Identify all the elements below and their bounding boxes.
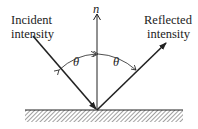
reflecting-surface xyxy=(25,110,183,122)
incident-label-line2: intensity xyxy=(11,27,55,41)
reflected-label-line2: intensity xyxy=(147,27,191,41)
incident-label-line1: Incident xyxy=(11,13,52,27)
angle-label-right: θ xyxy=(113,55,119,69)
normal-label: n xyxy=(93,2,99,16)
angle-label-left: θ xyxy=(73,55,79,69)
reflection-diagram: Incident intensity Reflected intensity n… xyxy=(0,0,198,129)
incident-ray xyxy=(33,36,96,109)
reflected-ray xyxy=(97,43,166,110)
reflected-label-line1: Reflected xyxy=(144,13,193,27)
